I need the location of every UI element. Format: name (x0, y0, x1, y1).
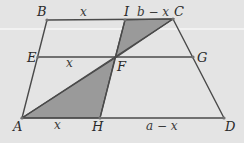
label-i: I (123, 4, 130, 19)
trapezoid-diagram: B I C E F G A H D x b − x x x a − x (0, 0, 244, 143)
label-segment-ic: b − x (137, 5, 169, 19)
edge-bc (47, 19, 173, 20)
label-segment-bi: x (80, 5, 87, 19)
label-e: E (26, 50, 37, 65)
label-segment-ah: x (54, 118, 61, 132)
edge-cd (173, 19, 224, 118)
label-segment-hd: a − x (146, 119, 178, 133)
label-c: C (174, 4, 184, 19)
label-g: G (197, 50, 207, 65)
label-segment-ef: x (66, 56, 73, 70)
label-h: H (91, 119, 104, 134)
label-a: A (12, 119, 22, 134)
point-g-dot (191, 55, 194, 58)
label-b: B (36, 4, 47, 19)
point-e-dot (36, 55, 39, 58)
label-f: F (116, 59, 127, 74)
label-d: D (224, 119, 236, 134)
